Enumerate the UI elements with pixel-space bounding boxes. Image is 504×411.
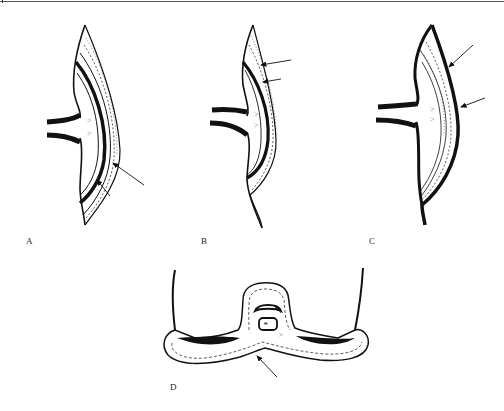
svg-text:>: > — [87, 129, 92, 138]
panel-label-c: C — [369, 236, 375, 246]
panel-b-diagram: > > — [210, 25, 291, 228]
svg-text:>: > — [279, 331, 283, 339]
arrow-a-outer — [113, 163, 144, 185]
panel-label-d: D — [170, 382, 177, 392]
arrow-b-upper — [261, 60, 291, 65]
panel-label-a: A — [26, 236, 33, 246]
arrow-b-lower — [263, 79, 281, 82]
panel-label-b: B — [201, 236, 207, 246]
arrow-d — [257, 356, 277, 377]
panel-a-diagram: > > — [47, 25, 144, 225]
svg-text:>: > — [430, 105, 435, 114]
svg-text:>: > — [254, 121, 259, 130]
panel-c-diagram: > > — [376, 25, 485, 225]
figure-canvas: > > > > > > — [0, 0, 504, 411]
svg-text:*: * — [264, 320, 269, 330]
asterisk-box — [259, 318, 277, 330]
panel-d-diagram: * > — [164, 268, 368, 377]
svg-text:>: > — [254, 110, 259, 119]
svg-text:>: > — [87, 116, 92, 125]
arrow-c-upper — [449, 45, 473, 67]
svg-text:>: > — [430, 115, 435, 124]
arrow-c-lower — [461, 98, 485, 107]
